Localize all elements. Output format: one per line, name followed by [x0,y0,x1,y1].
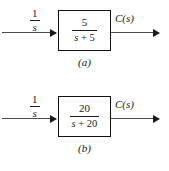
input-signal-label-a: 1 s [30,7,40,33]
block-diagram-figure: 1 s 5 s + 5 C(s) (a) 1 s [0,0,169,171]
transfer-function-fraction-b: 20 s + 20 [70,103,100,130]
input-signal-label-b: 1 s [30,93,40,119]
input-fraction-a: 1 s [30,8,40,33]
fraction-bar [72,30,97,31]
transfer-function-numerator-a: 5 [80,17,90,29]
input-numerator-a: 1 [30,8,40,19]
arrow-right-icon [50,115,57,123]
block-diagram-b: 1 s 20 s + 20 C(s) (b) [0,86,169,171]
transfer-function-block-a: 5 s + 5 [58,10,111,51]
caption-b: (b) [0,142,169,154]
output-signal-label-a: C(s) [115,12,134,24]
output-wire-a [111,32,156,33]
transfer-function-denominator-a: s + 5 [72,32,97,44]
block-diagram-a: 1 s 5 s + 5 C(s) (a) [0,0,169,85]
transfer-function-denominator-b: s + 20 [70,118,100,130]
fraction-bar [70,116,100,117]
output-signal-label-b: C(s) [115,98,134,110]
transfer-function-block-b: 20 s + 20 [58,96,111,137]
input-wire-a [2,32,56,33]
caption-a: (a) [0,56,169,68]
arrow-right-icon [153,29,160,37]
transfer-function-numerator-b: 20 [77,103,92,115]
output-wire-b [111,118,156,119]
input-numerator-b: 1 [30,94,40,105]
input-fraction-b: 1 s [30,94,40,119]
arrow-right-icon [153,115,160,123]
transfer-function-fraction-a: 5 s + 5 [72,17,97,44]
input-wire-b [2,118,56,119]
arrow-right-icon [50,29,57,37]
